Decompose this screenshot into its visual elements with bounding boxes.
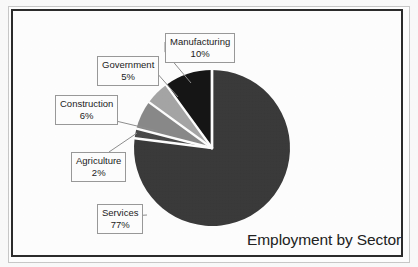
callout-services-label: Services [102,207,138,219]
callout-manufacturing-value: 10% [170,48,230,60]
chart-frame: Manufacturing 10% Government 5% Construc… [11,9,403,257]
callout-government[interactable]: Government 5% [97,56,159,86]
callout-manufacturing-label: Manufacturing [170,36,230,48]
callout-agriculture-label: Agriculture [76,155,121,167]
callout-government-value: 5% [102,71,154,83]
callout-agriculture-value: 2% [76,167,121,179]
callout-government-label: Government [102,59,154,71]
leader-line-agriculture [109,133,137,152]
callout-services[interactable]: Services 77% [97,204,143,234]
callout-agriculture[interactable]: Agriculture 2% [71,152,126,182]
callout-services-value: 77% [102,219,138,231]
callout-manufacturing[interactable]: Manufacturing 10% [165,33,235,63]
callout-construction-label: Construction [60,98,113,110]
chart-title: Employment by Sector [247,231,401,249]
callout-construction-value: 6% [60,110,113,122]
callout-construction[interactable]: Construction 6% [55,95,118,125]
screenshot-root: Manufacturing 10% Government 5% Construc… [0,0,418,267]
chart-plot-area: Manufacturing 10% Government 5% Construc… [13,11,401,255]
